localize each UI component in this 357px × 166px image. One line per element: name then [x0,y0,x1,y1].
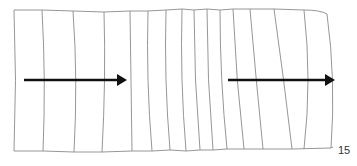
strip-line [148,11,153,151]
strip-line [14,10,16,151]
top-edge [14,9,327,14]
strip-line [194,10,200,150]
page-number: 15 [338,144,350,156]
strip-diagram [0,0,357,166]
strip-line [220,10,227,149]
arrowhead-icon [117,74,127,86]
right-arrow [228,74,335,86]
bottom-edge [14,147,333,152]
strip-line [73,11,76,152]
strip-line [102,12,105,152]
strip-line [207,9,213,150]
strip-line [182,9,187,151]
strip-line [166,10,171,150]
strip-line [130,11,132,151]
arrowhead-icon [325,74,335,86]
